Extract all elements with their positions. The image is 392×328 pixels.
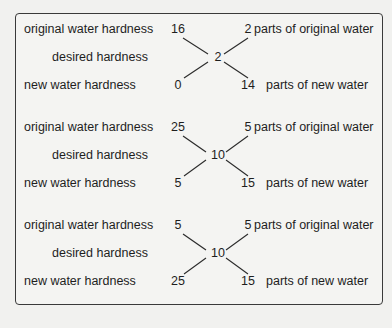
label-desired-hardness: desired hardness — [52, 246, 148, 260]
label-parts-of-new-water: parts of new water — [266, 274, 368, 288]
label-original-water-hardness: original water hardness — [24, 120, 153, 134]
label-parts-of-original-water: parts of original water — [254, 120, 374, 134]
cross-lines-icon — [176, 34, 256, 82]
label-new-water-hardness: new water hardness — [24, 176, 136, 190]
label-desired-hardness: desired hardness — [52, 148, 148, 162]
label-new-water-hardness: new water hardness — [24, 274, 136, 288]
mixing-cross-example-2: original water hardness desired hardness… — [16, 120, 382, 182]
label-original-water-hardness: original water hardness — [24, 22, 153, 36]
mixing-cross-example-3: original water hardness desired hardness… — [16, 218, 382, 280]
label-parts-of-original-water: parts of original water — [254, 22, 374, 36]
label-parts-of-new-water: parts of new water — [266, 78, 368, 92]
cross-lines-icon — [176, 132, 256, 180]
label-parts-of-new-water: parts of new water — [266, 176, 368, 190]
mixing-cross-diagram-box: original water hardness desired hardness… — [15, 13, 383, 305]
label-new-water-hardness: new water hardness — [24, 78, 136, 92]
mixing-cross-example-1: original water hardness desired hardness… — [16, 22, 382, 84]
label-desired-hardness: desired hardness — [52, 50, 148, 64]
label-original-water-hardness: original water hardness — [24, 218, 153, 232]
label-parts-of-original-water: parts of original water — [254, 218, 374, 232]
cross-lines-icon — [176, 230, 256, 278]
